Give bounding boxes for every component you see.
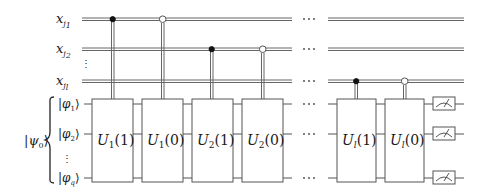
svg-text:U2(1): U2(1) (197, 132, 234, 150)
quantum-ellipsis (303, 103, 315, 179)
label-x-jl: xjl (56, 73, 69, 92)
curly-brace (45, 97, 54, 183)
control-dot-open-ul-0 (401, 78, 408, 85)
gate-u2-0: U2(0) (242, 99, 284, 182)
control-dot-filled-u1-1 (110, 17, 115, 22)
control-dot-open-u1-0 (159, 16, 166, 23)
meter-icon (433, 97, 455, 110)
vertical-ellipsis-classical: ⋮ (81, 58, 91, 69)
control-dot-filled-ul-1 (354, 79, 359, 84)
label-phiq: |φq⟩ (58, 171, 80, 187)
measurements (433, 97, 455, 184)
gate-u1-1: U1(1) (92, 99, 134, 182)
control-lines (112, 19, 407, 99)
control-dot-open-u2-0 (259, 46, 266, 53)
label-x-j1: xj1 (56, 11, 71, 30)
quantum-register-labels: |ψ0⟩ |φ1⟩ |φ2⟩ ⋮ |φq⟩ (24, 97, 80, 187)
vertical-ellipsis-quantum: ⋮ (62, 153, 72, 164)
classical-ellipsis (303, 18, 315, 82)
gate-u2-1: U2(1) (192, 99, 234, 182)
svg-text:U1(0): U1(0) (147, 132, 184, 150)
label-phi1: |φ1⟩ (58, 97, 80, 113)
label-x-j2: xj2 (56, 41, 71, 60)
label-phi2: |φ2⟩ (58, 127, 80, 143)
gate-ul-0: Ul(0) (385, 99, 425, 182)
gate-u1-0: U1(0) (142, 99, 184, 182)
quantum-circuit-diagram: xj1 xj2 xjl ⋮ |ψ0⟩ |φ1⟩ |φ2⟩ ⋮ |φq⟩ (0, 0, 491, 194)
meter-icon (433, 171, 455, 184)
svg-text:U2(0): U2(0) (247, 132, 284, 150)
svg-text:Ul(1): Ul(1) (342, 132, 377, 150)
meter-icon (433, 127, 455, 140)
control-dot-filled-u2-1 (209, 47, 214, 52)
gate-ul-1: Ul(1) (337, 99, 377, 182)
gates: U1(1) U1(0) U2(1) U2(0) Ul(1) Ul(0) (92, 99, 425, 182)
label-psi0: |ψ0⟩ (24, 133, 49, 150)
classical-wires (82, 18, 464, 83)
svg-text:U1(1): U1(1) (97, 132, 134, 150)
svg-text:Ul(0): Ul(0) (390, 132, 425, 150)
